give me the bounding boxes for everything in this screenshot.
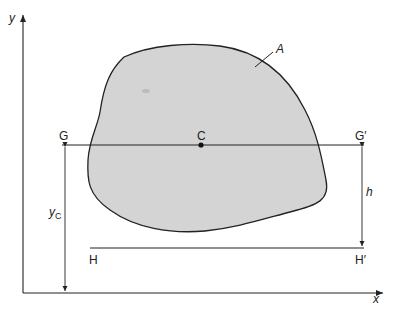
label-yc-subscript: C [55,211,62,221]
label-yc: yC [48,205,62,221]
centroid-point [198,142,203,147]
parallel-axis-diagram: y x G G′ C H H′ A yC h [0,0,395,315]
smudge-mark [142,89,150,93]
label-h: H [89,253,98,267]
y-axis-label: y [8,11,16,25]
label-c: C [197,129,206,143]
label-g: G [59,129,68,143]
area-shape [88,44,327,231]
label-area-a: A [275,42,284,56]
x-axis-label: x [372,292,380,306]
label-g-prime: G′ [355,129,367,143]
label-h-distance: h [366,185,373,199]
label-h-prime: H′ [355,253,367,267]
